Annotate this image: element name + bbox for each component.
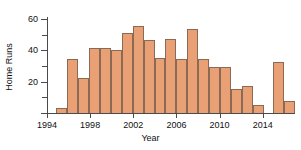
x-axis-tick-label: 2006	[156, 120, 196, 130]
bar	[220, 67, 231, 114]
y-axis-tick-label: 20	[18, 78, 38, 87]
bar	[78, 78, 89, 114]
x-axis-title: Year	[0, 133, 301, 143]
bar	[144, 40, 155, 114]
x-axis-tick-label: 2010	[200, 120, 240, 130]
y-axis-minor-tick	[42, 66, 47, 67]
bar-series	[47, 10, 295, 114]
x-axis-tick	[263, 113, 264, 118]
y-axis-tick-label: 60	[18, 15, 38, 24]
x-axis-tick	[220, 113, 221, 118]
x-axis-tick-label: 1994	[27, 120, 67, 130]
bar	[133, 26, 144, 114]
bar	[209, 67, 220, 114]
x-axis-tick	[47, 113, 48, 118]
bar	[176, 59, 187, 114]
x-axis-tick-label: 2002	[113, 120, 153, 130]
bar	[67, 59, 78, 114]
bar	[273, 62, 284, 114]
bar	[155, 58, 166, 114]
y-axis-minor-tick	[42, 97, 47, 98]
bar	[89, 48, 100, 114]
x-axis-line	[41, 113, 295, 114]
y-axis-line	[47, 17, 48, 114]
plot-area	[47, 10, 295, 114]
y-axis-tick-label: 40	[18, 46, 38, 55]
y-axis-major-tick	[41, 50, 47, 51]
bar	[242, 86, 253, 114]
bar	[165, 39, 176, 114]
x-axis-tick	[90, 113, 91, 118]
y-axis-major-tick	[41, 19, 47, 20]
x-axis-tick	[176, 113, 177, 118]
x-axis-tick-label: 1998	[70, 120, 110, 130]
bar	[187, 29, 198, 114]
bar	[111, 50, 122, 114]
bar	[231, 89, 242, 114]
x-axis-tick	[133, 113, 134, 118]
y-axis-title: Home Runs	[4, 27, 14, 107]
x-axis-tick-label: 2014	[243, 120, 283, 130]
bar	[198, 59, 209, 114]
bar	[122, 33, 133, 114]
y-axis-major-tick	[41, 82, 47, 83]
y-axis-minor-tick	[42, 35, 47, 36]
home-runs-histogram: 204060 199419982002200620102014 Year Hom…	[0, 0, 301, 150]
bar	[100, 48, 111, 114]
